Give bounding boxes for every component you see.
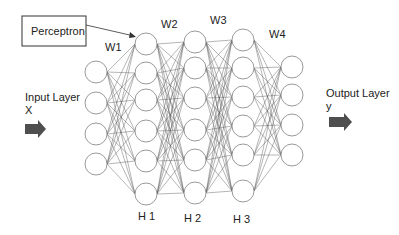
neuron-H3-1 bbox=[232, 29, 254, 51]
connection-H1-H2 bbox=[157, 130, 184, 194]
perceptron-pointer-arrowhead bbox=[129, 32, 136, 38]
neuron-H2-2 bbox=[184, 57, 206, 79]
neuron-H1-3 bbox=[135, 89, 157, 111]
connection-input-H1 bbox=[107, 44, 135, 134]
connection-H3-output bbox=[254, 95, 281, 191]
neuron-H1-2 bbox=[135, 62, 157, 84]
connection-H2-H3 bbox=[206, 191, 232, 193]
connection-H1-H2 bbox=[157, 193, 184, 194]
perceptron-label: Perceptron bbox=[31, 25, 85, 37]
output-arrow-icon bbox=[329, 113, 352, 131]
connection-input-H1 bbox=[107, 100, 135, 103]
connection-H1-H2 bbox=[157, 68, 184, 100]
neuron-H1-1 bbox=[135, 33, 157, 55]
neuron-input-4 bbox=[85, 153, 107, 175]
connection-H1-H2 bbox=[157, 160, 184, 161]
connection-H3-output bbox=[254, 67, 281, 97]
neuron-input-2 bbox=[85, 92, 107, 114]
neuron-H2-1 bbox=[184, 31, 206, 53]
connection-H1-H2 bbox=[157, 160, 184, 194]
perceptron-pointer-line bbox=[86, 25, 134, 36]
connection-H2-H3 bbox=[206, 40, 232, 42]
connection-H3-output bbox=[254, 40, 281, 155]
neuron-H3-4 bbox=[232, 115, 254, 137]
output-variable-label: y bbox=[326, 100, 332, 112]
neuron-output-4 bbox=[281, 144, 303, 166]
neuron-H3-5 bbox=[232, 144, 254, 166]
neuron-H2-6 bbox=[184, 182, 206, 204]
output-layer-label: Output Layer bbox=[326, 87, 390, 99]
neuron-H3-2 bbox=[232, 57, 254, 79]
neural-network-diagram: Perceptron W1 W2 W3 W4 H 1 H 2 H 3 Input… bbox=[0, 0, 399, 235]
neuron-input-1 bbox=[85, 61, 107, 83]
connection-input-H1 bbox=[107, 100, 135, 164]
neuron-output-2 bbox=[281, 84, 303, 106]
neuron-H3-6 bbox=[232, 180, 254, 202]
neuron-H1-4 bbox=[135, 120, 157, 142]
input-variable-label: X bbox=[25, 104, 33, 116]
layer-label-h1: H 1 bbox=[138, 210, 155, 222]
connection-H1-H2 bbox=[157, 42, 184, 44]
input-arrow-icon bbox=[25, 120, 46, 138]
connection-input-H1 bbox=[107, 72, 135, 73]
layer-label-h3: H 3 bbox=[233, 213, 250, 225]
neuron-input-3 bbox=[85, 123, 107, 145]
connection-input-H1 bbox=[107, 73, 135, 103]
neuron-output-3 bbox=[281, 114, 303, 136]
neuron-H1-5 bbox=[135, 150, 157, 172]
connection-H2-H3 bbox=[206, 160, 232, 191]
connection-input-H1 bbox=[107, 134, 135, 194]
connection-H3-output bbox=[254, 125, 281, 191]
connection-H1-H2 bbox=[157, 42, 184, 100]
connection-input-H1 bbox=[107, 164, 135, 194]
weight-label-w3: W3 bbox=[210, 14, 227, 26]
connection-input-H1 bbox=[107, 44, 135, 164]
neuron-output-1 bbox=[281, 56, 303, 78]
neuron-H2-4 bbox=[184, 119, 206, 141]
neuron-H1-6 bbox=[135, 183, 157, 205]
weight-label-w2: W2 bbox=[161, 18, 178, 30]
neuron-H2-3 bbox=[184, 87, 206, 109]
weight-label-w4: W4 bbox=[269, 28, 286, 40]
connection-input-H1 bbox=[107, 72, 135, 194]
neuron-H2-5 bbox=[184, 149, 206, 171]
connection-H3-output bbox=[254, 67, 281, 191]
layer-label-h2: H 2 bbox=[184, 212, 201, 224]
neuron-H3-3 bbox=[232, 86, 254, 108]
connection-input-H1 bbox=[107, 73, 135, 164]
input-layer-label: Input Layer bbox=[25, 91, 80, 103]
weight-label-w1: W1 bbox=[105, 41, 122, 53]
